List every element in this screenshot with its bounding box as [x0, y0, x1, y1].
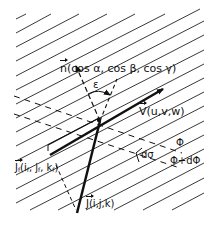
flux-f-label: Jf(if, jf, kf)	[15, 163, 58, 173]
velocity-components: (u,v,w)	[147, 105, 185, 118]
projection-line	[56, 165, 76, 210]
angle-label: ε	[93, 80, 98, 90]
normal-symbol: n	[60, 63, 67, 74]
flux-f-symbol: J	[15, 163, 18, 173]
flux-label: J(i,j,k)	[86, 199, 114, 209]
velocity-label: V(u,v,w)	[139, 106, 185, 117]
area-element-label: dσ	[141, 150, 154, 160]
normal-label: n(cos α, cos β, cos γ)	[60, 63, 176, 74]
flux-components: (i,j,k)	[89, 198, 115, 209]
diagram: n(cos α, cos β, cos γ) ε V(u,v,w) dσ Φ Φ…	[0, 0, 216, 242]
flux-symbol: J	[86, 199, 89, 209]
phi-label: Φ	[176, 138, 184, 148]
normal-components: (cos α, cos β, cos γ)	[67, 62, 176, 75]
velocity-symbol: V	[139, 106, 147, 117]
phi-plus-label: Φ+dΦ	[170, 156, 200, 166]
reference-line	[100, 79, 117, 121]
